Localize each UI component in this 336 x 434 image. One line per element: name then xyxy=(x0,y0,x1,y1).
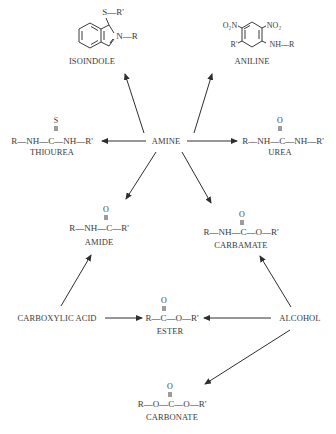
aniline-label: ANILINE xyxy=(234,57,269,66)
urea-oxygen-atom: O xyxy=(277,117,283,125)
carbamate-oxygen-atom: O xyxy=(239,211,245,219)
urea-label: UREA xyxy=(268,148,292,157)
amide-double-bond xyxy=(105,215,108,220)
alcohol-label: ALCOHOL xyxy=(279,314,320,323)
ester-oxygen-atom: O xyxy=(161,297,167,305)
ester-label: ESTER xyxy=(157,327,183,336)
thiourea-label: THIOUREA xyxy=(30,148,74,157)
thiourea-sulfur-atom: S xyxy=(54,117,58,125)
amide-label: AMIDE xyxy=(85,238,113,247)
carbonate-formula: R—O—C—O—R' xyxy=(138,400,207,409)
amide-oxygen-atom: O xyxy=(103,206,109,214)
thiourea-formula: R—NH—C—NH—R' xyxy=(11,137,93,146)
aniline-structure xyxy=(0,0,336,434)
carbamate-double-bond xyxy=(241,220,244,225)
carbonate-double-bond xyxy=(169,392,172,397)
carbonate-oxygen-atom: O xyxy=(167,383,173,391)
aniline-o2n-group: O₂N xyxy=(223,22,237,30)
urea-double-bond xyxy=(279,126,282,131)
ester-double-bond xyxy=(163,306,166,311)
aniline-nh-r: NH—R xyxy=(270,41,295,49)
carbamate-formula: R—NH—C—O—R' xyxy=(203,228,278,237)
aniline-no2-group: NO₂ xyxy=(267,22,281,30)
thiourea-double-bond xyxy=(55,126,58,131)
ester-formula: R—C—O—R' xyxy=(145,314,198,323)
carboxylic-acid-label: CARBOXYLIC ACID xyxy=(17,314,96,323)
carbonate-label: CARBONATE xyxy=(146,413,198,422)
carbamate-label: CARBAMATE xyxy=(214,241,267,250)
amine-label: AMINE xyxy=(152,137,180,146)
aniline-r-prime: R' xyxy=(231,41,238,49)
amide-formula: R—NH—C—R' xyxy=(69,224,129,233)
urea-formula: R—NH—C—NH—R' xyxy=(242,137,324,146)
